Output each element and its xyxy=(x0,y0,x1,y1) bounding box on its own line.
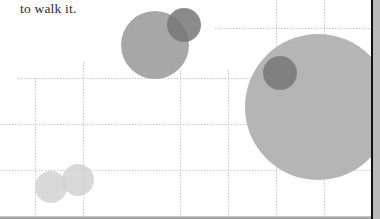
bubble-large xyxy=(245,34,371,180)
bubble-dark xyxy=(263,56,297,90)
bubble-chart xyxy=(0,0,371,216)
page-bottom-edge xyxy=(0,216,371,219)
page-edge-strip xyxy=(373,0,380,219)
bubble-light xyxy=(62,164,94,196)
chart-bubbles xyxy=(35,8,371,203)
bubble-dark xyxy=(167,8,201,42)
bubble-light xyxy=(35,171,67,203)
